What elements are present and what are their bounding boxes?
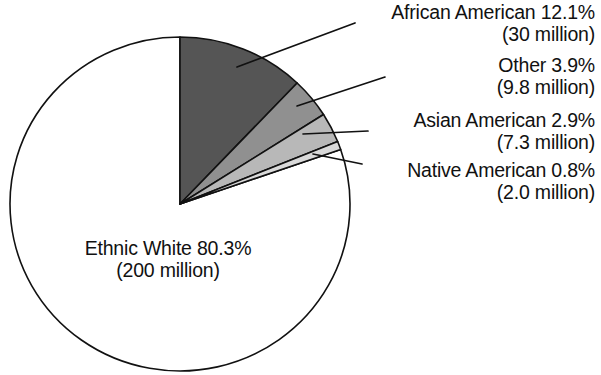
pie-label-ethnic-white: Ethnic White 80.3% (200 million) bbox=[48, 238, 288, 282]
pie-label-native-american: Native American 0.8% (2.0 million) bbox=[407, 160, 595, 204]
pie-label-native-american-count: (2.0 million) bbox=[407, 182, 595, 204]
pie-label-african-american-title: African American 12.1% bbox=[391, 2, 595, 24]
leader-line-african-american bbox=[237, 23, 355, 67]
pie-label-native-american-title: Native American 0.8% bbox=[407, 160, 595, 182]
pie-label-african-american: African American 12.1% (30 million) bbox=[391, 2, 595, 46]
leader-line-other bbox=[297, 77, 385, 106]
pie-label-other-count: (9.8 million) bbox=[497, 77, 595, 99]
pie-label-other: Other 3.9% (9.8 million) bbox=[497, 55, 595, 99]
pie-label-asian-american-count: (7.3 million) bbox=[413, 132, 595, 154]
pie-label-asian-american-title: Asian American 2.9% bbox=[413, 110, 595, 132]
pie-label-ethnic-white-title: Ethnic White 80.3% bbox=[48, 238, 288, 260]
pie-label-other-title: Other 3.9% bbox=[497, 55, 595, 77]
pie-label-ethnic-white-count: (200 million) bbox=[48, 260, 288, 282]
pie-label-asian-american: Asian American 2.9% (7.3 million) bbox=[413, 110, 595, 154]
pie-label-african-american-count: (30 million) bbox=[391, 24, 595, 46]
pie-chart: African American 12.1% (30 million) Othe… bbox=[0, 0, 601, 375]
